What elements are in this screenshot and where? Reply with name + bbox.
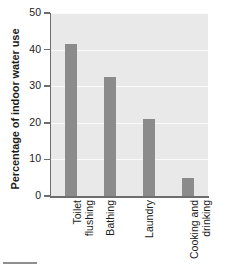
y-axis-tick-label: 10 xyxy=(16,152,41,164)
y-axis-title: Percentage of indoor water use xyxy=(9,9,21,209)
y-axis-tick xyxy=(44,12,50,14)
y-axis-tick-label: 40 xyxy=(16,43,41,55)
x-axis-tick-label: Cooking and drinking xyxy=(189,200,212,266)
x-axis-tick-label: Laundry xyxy=(144,200,156,266)
gridline xyxy=(51,13,208,14)
bar-chart-figure: Percentage of indoor water use 010203040… xyxy=(0,0,230,270)
y-axis-tick-label: 0 xyxy=(16,189,41,201)
scan-artifact xyxy=(3,262,37,264)
y-axis-tick xyxy=(44,122,50,124)
x-axis-tick-label: Toilet flushing xyxy=(72,200,95,266)
y-axis-tick xyxy=(44,49,50,51)
x-axis-line xyxy=(50,196,209,198)
y-axis-tick xyxy=(44,159,50,161)
y-axis-tick-label: 50 xyxy=(16,6,41,18)
bar xyxy=(143,119,155,196)
y-axis-tick xyxy=(44,85,50,87)
y-axis-tick xyxy=(44,195,50,197)
y-axis-tick-label: 30 xyxy=(16,79,41,91)
y-axis-tick-label: 20 xyxy=(16,116,41,128)
bar xyxy=(104,77,116,196)
x-axis-tick-label: Bathing xyxy=(105,200,117,266)
bar xyxy=(182,178,194,196)
bar xyxy=(65,44,77,196)
